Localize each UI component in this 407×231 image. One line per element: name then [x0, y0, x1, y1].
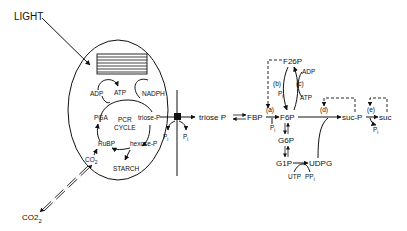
g6p-g1p-equilibrium	[285, 146, 288, 157]
f6p-g6p-equilibrium	[285, 123, 288, 134]
co2-outside-label: CO22	[22, 213, 42, 224]
g6p-label: G6P	[278, 136, 294, 145]
hexose-to-rubp-arc	[112, 148, 130, 150]
hexose-p-label: hexose-P	[130, 140, 157, 147]
adp-label: ADP	[90, 90, 103, 97]
triose-p-cytosol-label: triose P	[199, 113, 226, 122]
pi-left-arrow	[168, 121, 175, 130]
atp-return-arc	[102, 96, 110, 103]
rubp-label: RuBP	[98, 140, 115, 147]
pcr-label: PCR	[118, 116, 132, 123]
fbp-label: FBP	[247, 113, 263, 122]
f26p-label: F26P	[283, 57, 302, 66]
atp-label: ATP	[114, 89, 126, 96]
step-e-label: (e)	[367, 106, 375, 114]
step-d-label: (d)	[320, 106, 328, 114]
hexose-to-starch-arrow	[125, 150, 130, 160]
triose-fbp-equilibrium	[233, 115, 246, 119]
f6p-label: F6P	[280, 113, 295, 122]
atp-cytosol-label: ATP	[300, 94, 312, 101]
step-c-label: (c)	[296, 80, 304, 88]
step-b-pi-label: Pi	[278, 90, 283, 99]
chloroplast-envelope	[68, 40, 168, 180]
cycle-label: CYCLE	[114, 124, 136, 131]
pi-right-label: Pi	[183, 133, 188, 142]
g1p-label: G1P	[276, 159, 292, 168]
pi-left-label: Pi	[163, 133, 168, 142]
step-e-pi-arrow	[370, 118, 376, 125]
co2-to-rubp-arrow	[94, 149, 97, 155]
photosynthesis-sucrose-pathway-diagram: LIGHT ADP ATP NADPH PGA PCR CYCLE triose…	[0, 0, 407, 231]
step-a-label: (a)	[266, 106, 274, 114]
f6p-to-f26p-arrow	[294, 67, 298, 110]
step-e-pi-label: Pi	[373, 126, 378, 135]
co2-diffusion-arrows	[40, 165, 92, 212]
ppi-label: PPi	[305, 173, 315, 182]
pi-right-arrow	[179, 121, 186, 130]
sucp-inhibition-dashed	[324, 98, 355, 112]
udpg-label: UDPG	[309, 159, 332, 168]
thylakoid-stack	[97, 54, 147, 74]
suc-p-label: suc-P	[342, 113, 362, 122]
co2-inside-label: CO2	[85, 156, 98, 165]
rubp-to-pga-arc	[97, 124, 100, 141]
f26p-to-f6p-arrow	[283, 67, 288, 110]
utp-label: UTP	[288, 173, 301, 180]
adp-cytosol-label: ADP	[302, 68, 315, 75]
light-label: LIGHT	[14, 11, 43, 22]
triose-p-chloroplast-label: triose-P	[138, 114, 160, 121]
light-arrow	[42, 18, 90, 65]
step-a-pi-label: Pi	[270, 124, 275, 133]
udpg-to-sucp-curve	[318, 118, 328, 158]
utp-ppi-arc	[294, 164, 310, 172]
step-b-label: (b)	[273, 80, 281, 88]
starch-label: STARCH	[113, 165, 140, 172]
nadph-label: NADPH	[142, 90, 165, 97]
pga-label: PGA	[94, 114, 108, 121]
suc-label: suc	[379, 113, 391, 122]
